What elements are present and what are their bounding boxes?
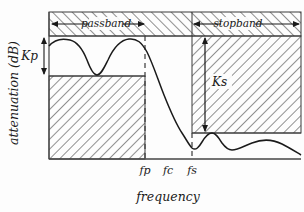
region-stopband-upper-forbidden — [192, 36, 301, 133]
passband-label: passband — [81, 17, 132, 29]
kp-annotation: Kp — [20, 38, 44, 74]
y-axis-title: attenuation (dB) — [6, 41, 21, 145]
x-axis-title: frequency — [135, 189, 201, 204]
ks-label: Ks — [211, 75, 227, 89]
stopband-label: stopband — [213, 17, 262, 29]
filter-specification-figure: passband stopband Kp Ks fp fc fs fre — [0, 0, 304, 212]
x-tick-fc: fc — [162, 164, 173, 177]
filter-spec-chart: passband stopband Kp Ks fp fc fs fre — [0, 0, 304, 212]
x-tick-labels: fp fc fs — [138, 164, 197, 177]
x-tick-fp: fp — [138, 164, 150, 177]
x-tick-fs: fs — [186, 164, 197, 177]
kp-label: Kp — [20, 49, 38, 63]
region-passband-lower-forbidden — [49, 76, 145, 159]
forbidden-regions — [49, 12, 301, 159]
